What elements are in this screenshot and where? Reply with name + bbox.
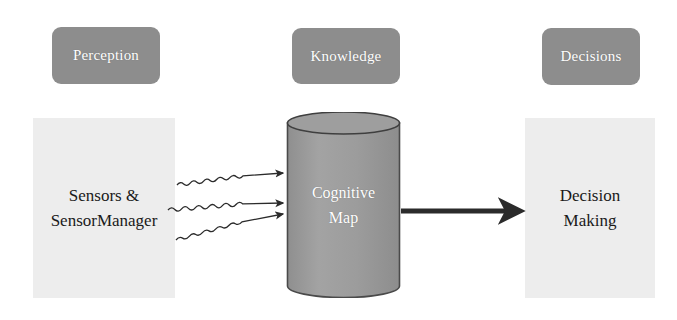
chip-knowledge: Knowledge: [292, 28, 400, 84]
chip-perception: Perception: [52, 27, 160, 84]
node-decision-making-line2: Making: [564, 208, 617, 233]
node-sensors-line1: Sensors &: [69, 183, 139, 208]
diagram-canvas: Perception Knowledge Decisions Sensors &…: [0, 0, 677, 320]
node-decision-making-line1: Decision: [560, 183, 620, 208]
wavy-arrow-2: [168, 202, 283, 211]
chip-decisions: Decisions: [542, 28, 640, 85]
node-decision-making: Decision Making: [525, 118, 655, 298]
node-sensors: Sensors & SensorManager: [33, 118, 175, 298]
chip-decisions-label: Decisions: [561, 48, 622, 65]
cylinder-shape: [286, 112, 401, 298]
wavy-arrow-3: [176, 214, 283, 240]
chip-perception-label: Perception: [73, 47, 139, 64]
node-sensors-line2: SensorManager: [51, 208, 158, 233]
wavy-arrow-1: [177, 173, 283, 185]
chip-knowledge-label: Knowledge: [311, 48, 382, 65]
node-cognitive-map: Cognitive Map: [286, 112, 401, 298]
